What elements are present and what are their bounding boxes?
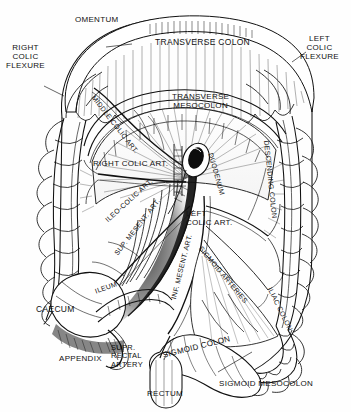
illustration-artwork — [0, 0, 351, 412]
rectum — [150, 352, 182, 408]
caecum — [51, 272, 125, 353]
leader-right-colic-flexure — [44, 86, 64, 96]
sigmoid-mesocolon — [191, 250, 278, 347]
anatomical-illustration: OMENTUM TRANSVERSE COLON RIGHT COLIC FLE… — [0, 0, 351, 412]
